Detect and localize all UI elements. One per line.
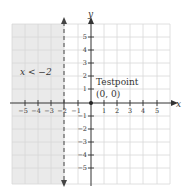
x-tick-label: 1 (102, 107, 106, 115)
test-point-label: Testpoint (96, 77, 139, 87)
x-tick-label: −2 (57, 107, 67, 115)
y-tick-label: 2 (83, 72, 87, 80)
coordinate-plane: x y −5 −4 −3 −2 −1 1 2 3 4 5 5 4 3 2 1 −… (0, 0, 186, 192)
x-tick-label: −4 (31, 107, 41, 115)
y-tick-label: −1 (77, 112, 87, 120)
y-tick-label: 4 (83, 46, 87, 54)
y-tick-label: −3 (77, 138, 87, 146)
y-tick-label: −2 (77, 125, 87, 133)
y-tick-label: 5 (83, 33, 87, 41)
test-point-marker (89, 101, 93, 105)
boundary-arrow-up-icon (61, 17, 67, 24)
x-tick-label: 2 (115, 107, 119, 115)
test-point-coords: (0, 0) (96, 89, 120, 99)
x-tick-label: −3 (44, 107, 54, 115)
y-tick-label: −5 (77, 164, 87, 172)
y-tick-label: 3 (83, 59, 87, 67)
x-axis-label: x (176, 99, 181, 109)
x-tick-labels: −5 −4 −3 −2 −1 1 2 3 4 5 (18, 107, 159, 115)
y-tick-label: 1 (83, 85, 87, 93)
x-tick-label: 3 (128, 107, 132, 115)
x-tick-label: −5 (18, 107, 28, 115)
y-tick-label: −4 (77, 151, 87, 159)
y-axis-label: y (87, 9, 94, 19)
inequality-graph: x y −5 −4 −3 −2 −1 1 2 3 4 5 5 4 3 2 1 −… (0, 0, 186, 192)
x-tick-label: 4 (141, 107, 145, 115)
inequality-label: x < −2 (20, 67, 52, 77)
x-tick-label: 5 (155, 107, 159, 115)
